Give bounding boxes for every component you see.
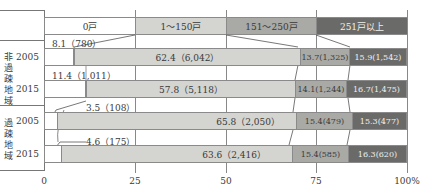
bar-depop-2005-251-plus: 15.3(477) — [352, 112, 407, 130]
year-label-depop-2005: 2005 — [16, 116, 39, 126]
bar-depop-2015-151-250: 15.4(585) — [292, 145, 349, 163]
x-tick-75: 75 — [310, 176, 321, 186]
bar-non-depop-2005-0 — [44, 48, 74, 66]
bar-non-depop-2015-1-150: 57.8（5,118） — [86, 80, 296, 98]
bar-non-depop-2015-0 — [44, 80, 86, 98]
x-tick-100: 100% — [394, 176, 420, 186]
bar-non-depop-2005-1-150: 62.4（6,042） — [74, 48, 301, 66]
x-tick-25: 25 — [129, 176, 140, 186]
year-label-non-depop-2015: 2015 — [16, 84, 39, 94]
bar-depop-2015-1-150: 63.6（2,416） — [61, 145, 293, 163]
bar-depop-2015-251-plus: 16.3(620) — [348, 145, 407, 163]
bar-depop-2005-151-250: 15.4(479) — [296, 112, 353, 130]
bar-non-depop-2015-251-plus: 16.7(1,475) — [346, 80, 407, 98]
group-label-non-depopulated: 非過疎地域 — [3, 52, 13, 107]
bar-non-depop-2015-151-250: 14.1(1,244) — [295, 80, 347, 98]
x-tick-50: 50 — [220, 176, 231, 186]
bar-depop-2015-0 — [44, 145, 62, 163]
year-label-non-depop-2005: 2005 — [16, 52, 39, 62]
bar-non-depop-2005-251-plus: 15.9(1,542) — [349, 48, 407, 66]
bar-non-depop-2005-151-250: 13.7(1,325) — [300, 48, 350, 66]
stacked-bar-chart: 0戸 1～150戸 151～250戸 251戸以上 非過疎地域 2005 201… — [0, 0, 422, 194]
group-label-depopulated: 過疎地域 — [3, 118, 13, 162]
year-label-depop-2015: 2015 — [16, 149, 39, 159]
bar-depop-2005-0 — [44, 112, 58, 130]
x-tick-0: 0 — [41, 176, 47, 186]
bar-depop-2005-1-150: 65.8（2,050） — [57, 112, 297, 130]
